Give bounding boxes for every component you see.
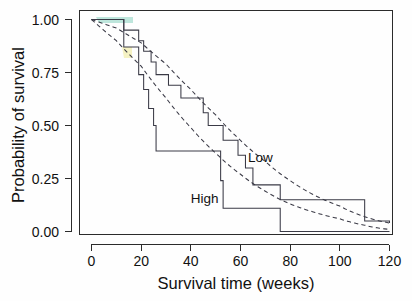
series-annotation-high: High (191, 191, 219, 206)
x-tick-label-1: 20 (133, 253, 149, 269)
x-tick-label-5: 100 (328, 253, 352, 269)
y-tick-label-0: 0.00 (32, 224, 59, 240)
y-axis-title: Probability of survival (9, 47, 27, 203)
plot-canvas: 0 20 40 60 80 100 120 Survival time (wee… (0, 0, 412, 301)
x-tick-label-2: 40 (183, 253, 199, 269)
x-tick-label-0: 0 (88, 253, 96, 269)
x-tick-label-6: 120 (378, 253, 402, 269)
x-tick-label-4: 80 (282, 253, 298, 269)
y-tick-label-3: 0.75 (32, 65, 59, 81)
x-axis-title: Survival time (weeks) (158, 274, 315, 292)
x-tick-label-3: 60 (233, 253, 249, 269)
y-tick-label-2: 0.50 (32, 118, 59, 134)
series-annotation-low: Low (248, 150, 273, 165)
y-tick-label-1: 0.25 (32, 171, 59, 187)
survival-plot-figure: 0 20 40 60 80 100 120 Survival time (wee… (0, 0, 412, 301)
y-tick-label-4: 1.00 (32, 12, 59, 28)
